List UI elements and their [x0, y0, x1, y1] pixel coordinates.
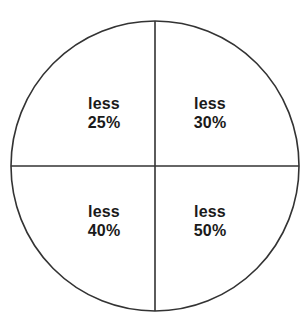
quadrant-label-bottom-left-value: 40%: [88, 221, 121, 240]
quadrant-label-bottom-right-word: less: [194, 202, 227, 221]
quadrant-label-top-left-value: 25%: [88, 113, 121, 132]
quadrant-circle-diagram: less 25% less 30% less 40% less 50%: [0, 0, 307, 331]
quadrant-label-top-right-word: less: [194, 94, 227, 113]
quadrant-label-top-right: less 30%: [194, 94, 227, 132]
quadrant-label-bottom-left-word: less: [88, 202, 121, 221]
quadrant-label-bottom-right: less 50%: [194, 202, 227, 240]
quadrant-label-bottom-right-value: 50%: [194, 221, 227, 240]
circle-diagram-graphic: [0, 0, 307, 331]
quadrant-label-top-left: less 25%: [88, 94, 121, 132]
quadrant-label-bottom-left: less 40%: [88, 202, 121, 240]
quadrant-label-top-right-value: 30%: [194, 113, 227, 132]
quadrant-label-top-left-word: less: [88, 94, 121, 113]
